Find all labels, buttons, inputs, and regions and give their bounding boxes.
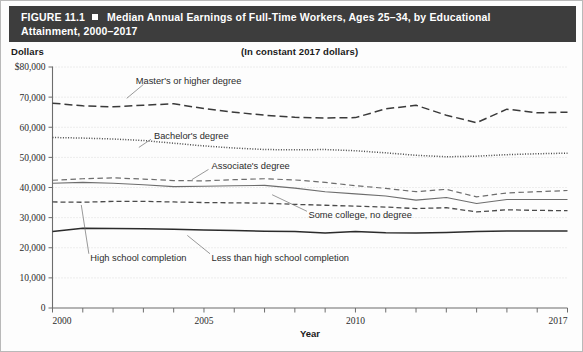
- series-leader-0: [127, 84, 144, 98]
- y-tick-label: 20,000: [19, 243, 45, 253]
- series-label-3: Some college, no degree: [308, 210, 411, 220]
- x-tick-label: 2010: [346, 316, 365, 326]
- x-axis-title: Year: [300, 328, 320, 339]
- x-tick-label: 2005: [194, 316, 213, 326]
- series-label-2: Associate's degree: [212, 161, 290, 171]
- series-leader-1: [139, 139, 151, 147]
- figure-container: FIGURE 11.1Median Annual Earnings of Ful…: [0, 0, 583, 352]
- y-tick-label: 40,000: [19, 183, 45, 193]
- y-tick-label: $80,000: [15, 62, 46, 72]
- series-leader-4: [81, 205, 89, 254]
- series-line-1: [53, 137, 568, 156]
- line-chart: $80,00070,00060,00050,00040,00030,00020,…: [1, 1, 583, 352]
- y-tick-label: 70,000: [19, 93, 45, 103]
- y-tick-label: 50,000: [19, 153, 45, 163]
- x-tick-label: 2017: [549, 316, 568, 326]
- series-line-3: [53, 182, 568, 203]
- series-line-0: [53, 103, 568, 123]
- series-label-1: Bachelor's degree: [154, 131, 229, 141]
- series-leader-3: [272, 195, 307, 212]
- y-tick-label: 10,000: [19, 273, 45, 283]
- series-label-0: Master's or higher degree: [136, 76, 242, 86]
- series-line-2: [53, 178, 568, 197]
- chart-plot-area: $80,00070,00060,00050,00040,00030,00020,…: [1, 1, 583, 352]
- series-label-4: High school completion: [90, 253, 186, 263]
- series-leader-5: [187, 235, 210, 253]
- series-label-5: Less than high school completion: [212, 253, 349, 263]
- y-tick-label: 0: [41, 303, 46, 313]
- y-tick-label: 60,000: [19, 123, 45, 133]
- y-tick-label: 30,000: [19, 213, 45, 223]
- series-leader-2: [192, 169, 209, 179]
- series-line-5: [53, 228, 568, 233]
- x-tick-label: 2000: [53, 316, 72, 326]
